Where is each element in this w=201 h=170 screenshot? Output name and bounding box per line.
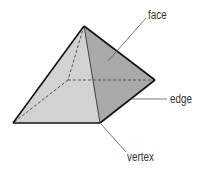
vertex-label: vertex xyxy=(127,151,154,163)
edge-label: edge xyxy=(170,93,192,105)
pyramid-diagram xyxy=(0,0,201,170)
face-leader-line xyxy=(108,18,146,61)
face-label: face xyxy=(148,9,167,21)
vertex-leader-line xyxy=(101,124,126,152)
